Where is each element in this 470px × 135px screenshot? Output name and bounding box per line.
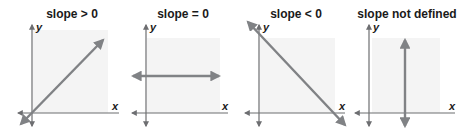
y-axis-label: y <box>36 21 42 33</box>
y-axis-label: y <box>373 21 379 33</box>
panel-title-undefined: slope not defined <box>357 7 456 21</box>
panel-zero-slope <box>132 25 228 126</box>
panel-undefined-slope <box>355 25 455 126</box>
x-axis-label: x <box>339 100 345 112</box>
panel-negative-slope <box>245 22 345 126</box>
panel-title-negative: slope < 0 <box>270 7 322 21</box>
x-axis-label: x <box>112 100 118 112</box>
y-axis-label: y <box>263 21 269 33</box>
panel-title-zero: slope = 0 <box>157 7 209 21</box>
panel-title-positive: slope > 0 <box>46 7 98 21</box>
x-axis-label: x <box>449 100 455 112</box>
x-axis-label: x <box>222 100 228 112</box>
panel-positive-slope <box>18 25 119 126</box>
y-axis-label: y <box>150 21 156 33</box>
